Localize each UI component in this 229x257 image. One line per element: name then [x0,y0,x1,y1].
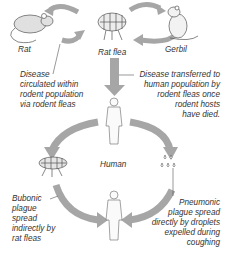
label-gerbil: Gerbil [165,45,187,55]
annotation-pneumonic: Pneumonic plague spread directly by drop… [152,198,220,248]
human-figure-icon-bottom [106,191,122,240]
down-arrow-shaft [110,58,119,86]
rat-flea-icon [98,13,126,40]
rat-flea-cycle-arrows [50,6,80,41]
annotation-transfer-to-human: Disease transferred to human population … [139,70,220,120]
rat-icon [11,14,53,43]
label-rat: Rat [18,45,31,55]
human-figure-icon-top [106,98,122,144]
arrowhead-to-gerbil [156,4,166,15]
annotation-bubonic: Bubonic plague spread indirectly by rat … [12,194,55,244]
droplets-icon [161,155,175,167]
flea-vector-icon [39,157,67,177]
arrowhead-pneumonic-to-human [121,212,132,228]
label-rat-flea: Rat flea [98,48,126,58]
plague-transmission-diagram: Rat Rat flea Gerbil Human Disease circul… [0,0,229,257]
down-arrow-head [104,85,125,96]
gerbil-icon [168,6,198,40]
label-human: Human [100,160,126,170]
arrowhead-to-flea-right [133,34,143,46]
annotation-rodent-circulation: Disease circulated within rodent populat… [20,70,83,110]
